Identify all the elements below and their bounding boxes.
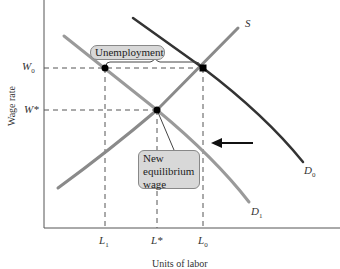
x-axis-label: Units of labor (152, 258, 208, 269)
label-d0: D0 (304, 164, 315, 179)
unemployment-callout: Unemployment (90, 45, 165, 60)
shift-arrow-icon (211, 138, 222, 148)
dashed-guides (44, 68, 203, 228)
label-d1: D1 (251, 205, 262, 220)
label-s: S (245, 17, 251, 29)
tick-lstar: L* (151, 234, 163, 246)
tick-wstar: W* (24, 103, 39, 115)
y-axis-label: Wage rate (6, 86, 17, 126)
callout-line: equilibrium (143, 165, 195, 178)
point-new-equilibrium (154, 107, 161, 114)
tick-l1: L1 (99, 234, 109, 249)
point-w0-l1 (102, 65, 109, 72)
point-original-equilibrium (200, 65, 207, 72)
callout-line: wage (143, 178, 195, 191)
callout-line: New (143, 152, 195, 165)
new-equilibrium-callout: New equilibrium wage (138, 150, 200, 189)
tick-w0: W0 (22, 60, 35, 75)
tick-l0: L0 (198, 234, 208, 249)
